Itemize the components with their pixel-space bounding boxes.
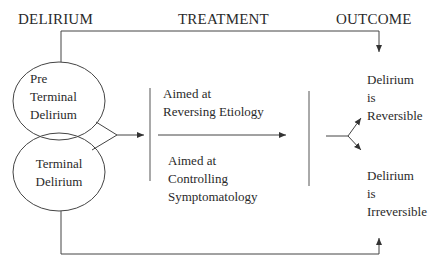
node-line: is: [367, 185, 427, 203]
node-line: Delirium: [30, 106, 77, 124]
node-line: Pre: [30, 70, 77, 88]
node-line: Controlling: [168, 170, 258, 188]
outcome-reversible: Delirium is Reversible: [367, 71, 423, 125]
node-line: Irreversible: [367, 203, 427, 221]
node-pre-terminal-delirium: Pre Terminal Delirium: [30, 70, 77, 124]
header-delirium: DELIRIUM: [18, 12, 93, 27]
node-line: Delirium: [367, 71, 423, 89]
header-treatment: TREATMENT: [178, 12, 269, 27]
node-line: Symptomatology: [168, 188, 258, 206]
node-line: Delirium: [367, 167, 427, 185]
treatment-reversing-etiology: Aimed at Reversing Etiology: [163, 85, 264, 121]
outcome-irreversible: Delirium is Irreversible: [367, 167, 427, 221]
node-line: Aimed at: [168, 152, 258, 170]
treatment-controlling-symptomatology: Aimed at Controlling Symptomatology: [168, 152, 258, 206]
diagram-lines: [0, 0, 440, 266]
converge-connector: [92, 122, 144, 150]
node-line: Aimed at: [163, 85, 264, 103]
bypass-connector-top: [61, 31, 379, 62]
node-line: is: [367, 89, 423, 107]
node-line: Terminal: [14, 155, 104, 173]
node-line: Reversible: [367, 107, 423, 125]
node-line: Reversing Etiology: [163, 103, 264, 121]
header-outcome: OUTCOME: [336, 12, 412, 27]
diverge-connector: [326, 118, 361, 150]
node-terminal-delirium: Terminal Delirium: [14, 155, 104, 191]
node-line: Delirium: [14, 173, 104, 191]
node-line: Terminal: [30, 88, 77, 106]
bypass-connector-bottom: [61, 211, 379, 254]
